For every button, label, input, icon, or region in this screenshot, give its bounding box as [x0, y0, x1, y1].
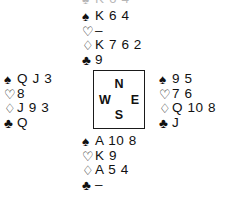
east-diamonds-holding: Q 10 8 — [172, 101, 216, 115]
west-hearts-holding: 8 — [17, 87, 25, 101]
spade-suit-icon: ♠ — [4, 73, 17, 87]
spade-suit-icon: ♠ — [82, 135, 95, 149]
bridge-deal-diagram: ♠ K 6 4 ♠ K 6 4 ♡ – ♢ K 7 6 2 ♣ 9 ♠ Q J … — [0, 0, 225, 200]
north-diamonds-holding: K 7 6 2 — [95, 38, 142, 52]
north-row-hearts: ♡ – — [82, 24, 142, 39]
compass-north-label: N — [114, 78, 123, 91]
heart-suit-icon: ♡ — [82, 150, 95, 163]
east-row-clubs: ♣ J — [159, 116, 216, 131]
heart-suit-icon: ♡ — [159, 88, 172, 101]
compass-east-label: E — [131, 93, 139, 106]
west-spades-holding: Q J 3 — [17, 72, 52, 86]
compass-box: N W E S — [93, 70, 145, 129]
club-suit-icon: ♣ — [4, 117, 17, 131]
south-row-spades: ♠ A 10 8 — [82, 134, 137, 149]
hand-west: ♠ Q J 3 ♡ 8 ♢ J 9 3 ♣ Q — [4, 72, 52, 130]
compass-south-label: S — [115, 109, 123, 122]
north-row-spades: ♠ K 6 4 — [82, 9, 142, 24]
card-holding-spades: K 6 4 — [95, 0, 130, 6]
diamond-suit-icon: ♢ — [82, 164, 95, 177]
east-row-diamonds: ♢ Q 10 8 — [159, 101, 216, 116]
east-row-spades: ♠ 9 5 — [159, 72, 216, 87]
south-row-hearts: ♡ K 9 — [82, 149, 137, 164]
clipped-top-row: ♠ K 6 4 — [82, 0, 130, 7]
spade-suit-icon: ♠ — [82, 0, 95, 7]
east-clubs-holding: J — [172, 116, 179, 130]
hand-row-spades: ♠ K 6 4 — [82, 0, 130, 7]
south-diamonds-holding: A 5 4 — [95, 163, 129, 177]
heart-suit-icon: ♡ — [82, 25, 95, 38]
spade-suit-icon: ♠ — [159, 73, 172, 87]
club-suit-icon: ♣ — [82, 54, 95, 68]
west-row-spades: ♠ Q J 3 — [4, 72, 52, 87]
west-row-hearts: ♡ 8 — [4, 87, 52, 102]
hand-east: ♠ 9 5 ♡ 7 6 ♢ Q 10 8 ♣ J — [159, 72, 216, 130]
south-clubs-holding: – — [95, 178, 103, 192]
diamond-suit-icon: ♢ — [82, 39, 95, 52]
west-diamonds-holding: J 9 3 — [17, 101, 49, 115]
west-row-clubs: ♣ Q — [4, 116, 52, 131]
east-spades-holding: 9 5 — [172, 72, 193, 86]
south-spades-holding: A 10 8 — [95, 134, 137, 148]
south-row-clubs: ♣ – — [82, 178, 137, 193]
north-spades-holding: K 6 4 — [95, 9, 130, 23]
heart-suit-icon: ♡ — [4, 88, 17, 101]
club-suit-icon: ♣ — [82, 179, 95, 193]
diamond-suit-icon: ♢ — [159, 102, 172, 115]
compass-west-label: W — [99, 93, 111, 106]
north-row-diamonds: ♢ K 7 6 2 — [82, 38, 142, 53]
hand-north: ♠ K 6 4 ♡ – ♢ K 7 6 2 ♣ 9 — [82, 9, 142, 67]
south-row-diamonds: ♢ A 5 4 — [82, 163, 137, 178]
north-row-clubs: ♣ 9 — [82, 53, 142, 68]
diamond-suit-icon: ♢ — [4, 102, 17, 115]
north-hearts-holding: – — [95, 24, 103, 38]
south-hearts-holding: K 9 — [95, 149, 117, 163]
club-suit-icon: ♣ — [159, 117, 172, 131]
spade-suit-icon: ♠ — [82, 10, 95, 24]
north-clubs-holding: 9 — [95, 53, 103, 67]
west-clubs-holding: Q — [17, 116, 28, 130]
west-row-diamonds: ♢ J 9 3 — [4, 101, 52, 116]
east-row-hearts: ♡ 7 6 — [159, 87, 216, 102]
east-hearts-holding: 7 6 — [172, 87, 193, 101]
hand-south: ♠ A 10 8 ♡ K 9 ♢ A 5 4 ♣ – — [82, 134, 137, 192]
